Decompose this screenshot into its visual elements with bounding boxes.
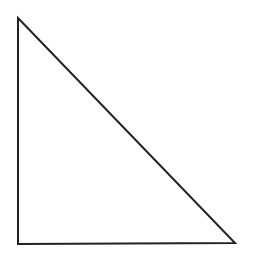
triangle-diagram (0, 0, 254, 260)
right-triangle-shape (18, 18, 235, 244)
